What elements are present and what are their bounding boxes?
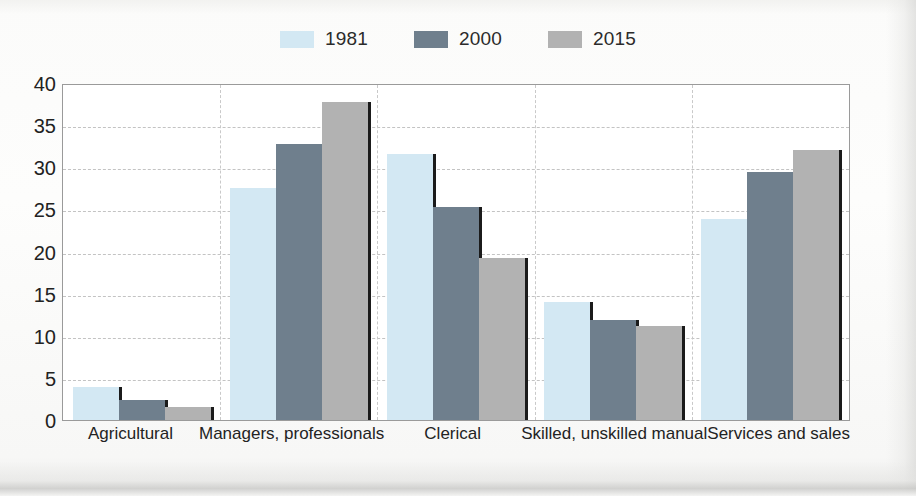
bar-1981 [387, 154, 433, 420]
bar-1981 [230, 188, 276, 420]
bar-group [535, 85, 692, 420]
scan-edge-bottom [0, 462, 916, 496]
bar-1981 [701, 219, 747, 420]
bar-2015 [793, 150, 839, 421]
bar-2000 [119, 400, 165, 420]
y-tick-label: 10 [0, 325, 56, 348]
legend-label: 2000 [459, 28, 502, 50]
bar-group [63, 85, 220, 420]
bars-layer [63, 85, 849, 420]
scan-edge-right [886, 0, 916, 496]
x-axis-label: Managers, professionals [199, 424, 384, 444]
bar-2015 [165, 407, 211, 420]
scan-edge-top [0, 0, 916, 14]
chart-page: 198120002015 0510152025303540 Agricultur… [0, 0, 916, 496]
bar-2015 [479, 258, 525, 420]
bar-group [692, 85, 849, 420]
legend-item-1981: 1981 [280, 28, 368, 50]
y-tick-label: 0 [0, 410, 56, 433]
x-axis-label: Skilled, unskilled manual [521, 424, 707, 444]
bar-group [220, 85, 377, 420]
bar-2015 [322, 102, 368, 420]
y-tick-label: 25 [0, 199, 56, 222]
legend-swatch-2015 [548, 31, 582, 48]
bar-2015 [636, 326, 682, 420]
legend-swatch-1981 [280, 31, 314, 48]
x-axis-label: Agricultural [62, 424, 199, 444]
bar-2000 [276, 144, 322, 420]
legend-label: 1981 [325, 28, 368, 50]
legend-swatch-2000 [414, 31, 448, 48]
plot-area [62, 84, 850, 421]
legend-label: 2015 [593, 28, 636, 50]
bar-group [377, 85, 534, 420]
bar-1981 [73, 387, 119, 421]
y-axis: 0510152025303540 [0, 84, 56, 421]
x-axis-label: Services and sales [707, 424, 850, 444]
bar-2000 [590, 320, 636, 421]
y-tick-label: 30 [0, 157, 56, 180]
bar-2000 [433, 207, 479, 420]
bar-1981 [544, 302, 590, 420]
x-axis-label: Clerical [384, 424, 521, 444]
y-tick-label: 5 [0, 367, 56, 390]
y-tick-label: 35 [0, 115, 56, 138]
legend-item-2000: 2000 [414, 28, 502, 50]
chart-legend: 198120002015 [0, 28, 916, 50]
y-tick-label: 15 [0, 283, 56, 306]
legend-item-2015: 2015 [548, 28, 636, 50]
y-tick-label: 20 [0, 241, 56, 264]
bar-2000 [747, 172, 793, 420]
y-tick-label: 40 [0, 73, 56, 96]
x-axis: AgriculturalManagers, professionalsCleri… [62, 424, 850, 444]
